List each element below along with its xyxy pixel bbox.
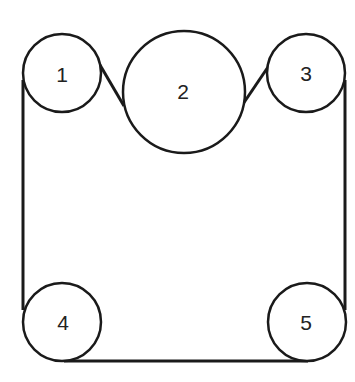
- pulley-5-label: 5: [300, 311, 312, 334]
- pulley-3-label: 3: [300, 62, 312, 85]
- pulley-1-label: 1: [56, 63, 68, 86]
- belt-1-to-2: [100, 65, 124, 106]
- pulley-diagram: 1 2 3 4 5: [0, 0, 355, 382]
- pulley-4-label: 4: [57, 311, 69, 334]
- belt-2-to-3: [243, 67, 268, 104]
- pulley-2-label: 2: [177, 80, 189, 103]
